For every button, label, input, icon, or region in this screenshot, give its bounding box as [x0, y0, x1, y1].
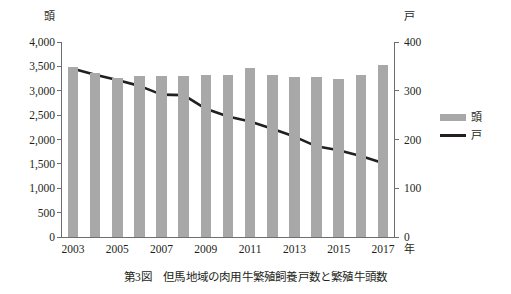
figure-caption: 第3図 但馬地域の肉用牛繁殖飼養戸数と繁殖牛頭数 [0, 270, 511, 284]
legend-label-heads: 頭 [471, 111, 482, 124]
x-axis-tick-label: 2011 [239, 243, 262, 256]
left-axis-tick-label: 1,000 [29, 182, 55, 194]
x-axis-tick-label: 2015 [327, 243, 350, 256]
left-axis-tick-label: 1,500 [29, 158, 55, 170]
left-axis-tick-label: 2,000 [29, 134, 55, 146]
legend-item-heads: 頭 [440, 108, 506, 126]
legend-line-swatch-icon [440, 134, 466, 137]
legend-label-households: 戸 [471, 129, 482, 142]
left-axis-tick [57, 42, 61, 43]
left-axis-tick [57, 139, 61, 140]
figure-chart: 頭 戸 05001,0001,5002,0002,5003,0003,5004,… [0, 0, 511, 294]
left-axis-unit-label: 頭 [44, 10, 55, 23]
right-axis-tick-label: 300 [404, 85, 421, 97]
x-axis-tick-label: 2003 [62, 243, 85, 256]
x-axis-tick-label: 2013 [283, 243, 306, 256]
bar [112, 78, 123, 237]
bar [267, 75, 278, 237]
legend-bar-swatch-icon [440, 114, 466, 121]
bar [201, 75, 212, 237]
left-axis-tick [57, 115, 61, 116]
bar [68, 67, 79, 237]
right-axis-tick-label: 400 [404, 36, 421, 48]
bar [223, 75, 234, 237]
left-axis-tick [57, 163, 61, 164]
left-axis-tick [57, 90, 61, 91]
right-axis-tick-label: 200 [404, 134, 421, 146]
bar [356, 75, 367, 237]
right-axis-tick [395, 42, 399, 43]
left-axis-tick-label: 500 [38, 207, 55, 219]
x-axis-tick-label: 2005 [106, 243, 129, 256]
left-axis-tick-label: 3,500 [29, 60, 55, 72]
right-axis-unit-label: 戸 [404, 10, 415, 23]
right-axis-tick [395, 139, 399, 140]
x-axis-tick-label: 2007 [150, 243, 173, 256]
legend-item-households: 戸 [440, 126, 506, 144]
bar [156, 76, 167, 237]
left-axis-tick-label: 0 [49, 231, 55, 243]
left-axis-tick [57, 212, 61, 213]
right-axis-tick [395, 237, 399, 238]
bar [134, 76, 145, 237]
right-axis-tick-label: 0 [404, 231, 410, 243]
plot-area [62, 42, 394, 237]
chart-legend: 頭 戸 [440, 108, 506, 144]
right-axis-tick [395, 90, 399, 91]
left-axis-tick [57, 188, 61, 189]
bar [178, 76, 189, 237]
x-axis-unit-label: 年 [404, 243, 415, 256]
bar [289, 77, 300, 237]
bar [333, 79, 344, 237]
left-axis-tick [57, 66, 61, 67]
bar [378, 65, 389, 237]
bar [311, 77, 322, 237]
right-axis-tick-label: 100 [404, 182, 421, 194]
right-axis-line [394, 42, 395, 238]
x-axis-tick-label: 2017 [371, 243, 394, 256]
left-axis-tick-label: 3,000 [29, 85, 55, 97]
right-axis-tick [395, 188, 399, 189]
x-axis-tick-label: 2009 [194, 243, 217, 256]
left-axis-tick-label: 4,000 [29, 36, 55, 48]
left-axis-tick-label: 2,500 [29, 109, 55, 121]
x-axis-line [61, 237, 395, 238]
bar [90, 73, 101, 237]
left-axis-tick [57, 237, 61, 238]
bar [245, 68, 256, 237]
